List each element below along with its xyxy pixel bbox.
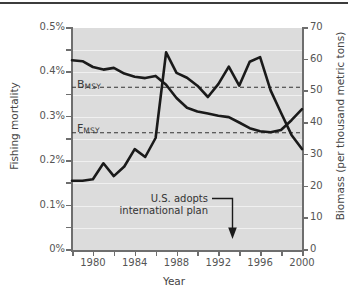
series-biomass	[72, 52, 302, 180]
annotation-leader-line	[212, 199, 233, 229]
series-fishing-mortality	[72, 60, 302, 132]
chart-figure: 0.5% 0.4% 0.3% 0.2% 0.1% 0% 70 60 50 40 …	[0, 0, 348, 294]
annotation-arrow-icon	[228, 228, 237, 240]
chart-vector-layer	[0, 0, 348, 294]
